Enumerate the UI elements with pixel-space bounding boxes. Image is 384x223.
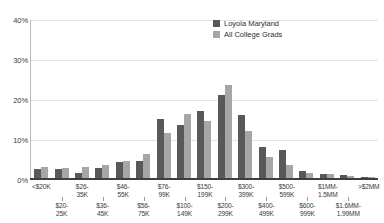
bar-group bbox=[133, 20, 153, 178]
bar bbox=[34, 169, 41, 178]
bar bbox=[259, 147, 266, 178]
bar-group bbox=[194, 20, 214, 178]
x-axis-tick-label: $400-499K bbox=[249, 202, 283, 217]
x-axis-tick-label: $300-399K bbox=[229, 183, 263, 198]
bar bbox=[238, 115, 245, 178]
legend-swatch-icon bbox=[213, 31, 220, 38]
x-axis-tick-label: $1.6MM-1.99MM bbox=[331, 202, 365, 217]
x-axis-tick-mark bbox=[348, 197, 349, 201]
bar bbox=[95, 168, 102, 178]
x-axis-tick-label: $36-45K bbox=[86, 202, 120, 217]
x-axis-tick-mark bbox=[307, 197, 308, 201]
x-axis-tick-label: $56-75K bbox=[127, 202, 161, 217]
bar bbox=[197, 111, 204, 178]
x-axis-tick-mark bbox=[225, 197, 226, 201]
x-axis-tick-labels: <$20K$20-25K$26-35K$36-45K$46-55K$56-75K… bbox=[31, 182, 379, 223]
bar bbox=[82, 167, 89, 178]
bar-group bbox=[215, 20, 235, 178]
legend-label: Loyola Maryland bbox=[224, 19, 279, 28]
x-axis-tick-label: $500-599K bbox=[270, 183, 304, 198]
x-axis-line bbox=[30, 178, 378, 180]
legend-item-all-college-grads: All College Grads bbox=[213, 30, 282, 39]
bar bbox=[225, 85, 232, 178]
y-axis-tick-label: 20% bbox=[2, 96, 28, 105]
bar bbox=[62, 168, 69, 178]
x-axis-tick-label: $20-25K bbox=[45, 202, 79, 217]
bar-group bbox=[51, 20, 71, 178]
bar-group bbox=[174, 20, 194, 178]
bar bbox=[286, 165, 293, 178]
x-axis-tick-mark bbox=[185, 197, 186, 201]
bar bbox=[102, 165, 109, 178]
bar bbox=[41, 167, 48, 178]
y-axis-tick-label: 10% bbox=[2, 136, 28, 145]
bar bbox=[136, 161, 143, 178]
legend-label: All College Grads bbox=[224, 30, 282, 39]
bar bbox=[245, 131, 252, 178]
bar-group bbox=[255, 20, 275, 178]
plot-area bbox=[30, 20, 378, 180]
bar bbox=[177, 125, 184, 178]
legend-swatch-icon bbox=[213, 20, 220, 27]
x-axis-tick-mark bbox=[103, 197, 104, 201]
bar-group bbox=[92, 20, 112, 178]
bar-group bbox=[153, 20, 173, 178]
bar-group bbox=[31, 20, 51, 178]
bar-group bbox=[72, 20, 92, 178]
x-axis-tick-mark bbox=[144, 197, 145, 201]
bar-group bbox=[276, 20, 296, 178]
bar-group bbox=[337, 20, 357, 178]
x-axis-tick-mark bbox=[266, 197, 267, 201]
x-axis-tick-label: $150-199K bbox=[188, 183, 222, 198]
x-axis-tick-label: $100-149K bbox=[168, 202, 202, 217]
x-axis-tick-label: $46-55K bbox=[106, 183, 140, 198]
bar-group bbox=[113, 20, 133, 178]
bar bbox=[116, 162, 123, 178]
x-axis-tick-label: $1MM-1.5MM bbox=[311, 183, 345, 198]
bar bbox=[266, 157, 273, 178]
bar bbox=[143, 154, 150, 178]
bar bbox=[123, 161, 130, 178]
bar-group bbox=[317, 20, 337, 178]
bar-group bbox=[235, 20, 255, 178]
bar bbox=[299, 171, 306, 178]
y-axis-tick-label: 30% bbox=[2, 56, 28, 65]
bar bbox=[157, 119, 164, 178]
income-distribution-bar-chart: 0%10%20%30%40% Loyola Maryland All Colle… bbox=[0, 0, 384, 223]
bar-group bbox=[296, 20, 316, 178]
x-axis-tick-label: <$20K bbox=[24, 183, 58, 191]
x-axis-tick-label: $600-999K bbox=[290, 202, 324, 217]
legend-item-loyola-maryland: Loyola Maryland bbox=[213, 19, 282, 28]
bar bbox=[279, 150, 286, 178]
x-axis-tick-mark bbox=[62, 197, 63, 201]
y-axis-tick-label: 40% bbox=[2, 16, 28, 25]
bar bbox=[55, 169, 62, 178]
x-axis-tick-label: >$2MM bbox=[352, 183, 384, 191]
x-axis-tick-label: $200-299K bbox=[208, 202, 242, 217]
x-axis-tick-label: $76-99K bbox=[147, 183, 181, 198]
bar bbox=[204, 121, 211, 178]
bar-groups bbox=[31, 20, 378, 178]
bar bbox=[184, 114, 191, 178]
bar bbox=[218, 95, 225, 178]
bar-group bbox=[358, 20, 378, 178]
legend: Loyola Maryland All College Grads bbox=[213, 19, 282, 41]
bar bbox=[164, 133, 171, 178]
x-axis-tick-label: $26-35K bbox=[65, 183, 99, 198]
